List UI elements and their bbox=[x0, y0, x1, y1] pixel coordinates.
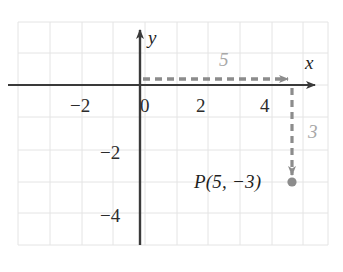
y-tick-label-minus4: −4 bbox=[100, 206, 120, 225]
x-tick-label-0: 0 bbox=[140, 96, 150, 115]
x-tick-label-minus2: −2 bbox=[70, 96, 90, 115]
x-axis-label: x bbox=[305, 53, 313, 72]
grid-lines bbox=[18, 22, 328, 245]
y-axis-label: y bbox=[148, 28, 156, 47]
x-tick-label-2: 2 bbox=[196, 96, 206, 115]
y-tick-label-minus2: −2 bbox=[100, 143, 120, 162]
point-p-label: P(5, −3) bbox=[194, 172, 261, 191]
vertical-drop-label: 3 bbox=[308, 122, 318, 141]
x-tick-label-4: 4 bbox=[260, 96, 270, 115]
point-p-marker bbox=[287, 177, 296, 186]
coordinate-plane-figure: −2 0 2 4 −2 −4 y x 5 3 P(5, −3) bbox=[0, 0, 343, 272]
horizontal-run-label: 5 bbox=[219, 50, 229, 69]
coordinate-plane-svg bbox=[0, 0, 343, 272]
